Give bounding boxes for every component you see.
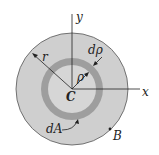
- b-point-marker: [109, 128, 112, 131]
- ring-radius-label: ρ: [76, 70, 84, 84]
- y-axis-label: y: [75, 10, 83, 24]
- cross-section-diagram: y x r dρ ρ C dA B: [0, 0, 159, 155]
- x-axis-label: x: [142, 85, 149, 99]
- ring-width-label: dρ: [88, 43, 103, 57]
- boundary-label: B: [112, 129, 122, 143]
- area-element-label: dA: [46, 122, 63, 136]
- center-label: C: [66, 90, 76, 104]
